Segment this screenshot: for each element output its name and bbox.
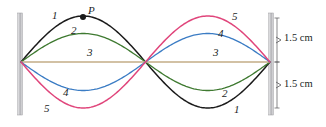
point-p-label: P [88, 5, 95, 16]
amplitude-dimension-arrows [275, 18, 282, 108]
upper-amplitude-label: 1.5 cm [284, 33, 313, 44]
curve-label-right-2: 2 [222, 88, 228, 99]
standing-wave-figure: P 1 2 3 4 5 5 4 3 2 1 1.5 cm 1.5 cm [0, 0, 326, 127]
curve-label-right-3: 3 [213, 47, 219, 58]
curve-label-left-5: 5 [44, 103, 50, 114]
curve-label-left-1: 1 [52, 10, 58, 21]
lower-amplitude-label: 1.5 cm [284, 79, 313, 90]
curve-label-right-5: 5 [232, 11, 238, 22]
curve-label-left-3: 3 [87, 47, 93, 58]
wave-curves [21, 16, 270, 108]
curve-label-left-2: 2 [71, 25, 77, 36]
curve-label-right-4: 4 [218, 28, 224, 39]
curve-label-right-1: 1 [234, 104, 240, 115]
point-p-dot [80, 14, 86, 20]
curve-label-left-4: 4 [63, 87, 69, 98]
